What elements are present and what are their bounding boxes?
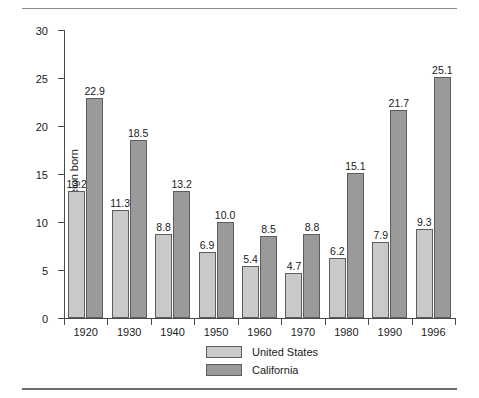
x-axis-tick	[64, 318, 65, 325]
bar-value-label: 5.4	[243, 253, 258, 265]
bar-united-states-1996: 9.3	[416, 229, 433, 318]
bar-value-label: 8.8	[305, 221, 320, 233]
y-axis-tick: 20	[58, 126, 65, 127]
x-axis-line	[64, 318, 456, 319]
x-axis-tick-label: 1990	[378, 326, 402, 338]
bar-united-states-1960: 5.4	[242, 266, 259, 318]
bar-value-label: 6.9	[200, 239, 215, 251]
bar-california-1930: 18.5	[130, 140, 147, 318]
x-axis-tick-label: 1920	[73, 326, 97, 338]
legend-swatch-icon-united-states	[206, 346, 242, 358]
x-axis-tick	[325, 318, 326, 325]
figure: Percent foreign born 05101520253013.222.…	[0, 0, 479, 398]
x-axis-tick	[238, 318, 239, 325]
x-axis-tick	[281, 318, 282, 325]
bar-california-1980: 15.1	[347, 173, 364, 318]
y-axis-tick-label: 25	[36, 73, 48, 85]
bar-california-1996: 25.1	[434, 77, 451, 318]
y-axis-tick-label: 10	[36, 217, 48, 229]
bar-value-label: 18.5	[128, 127, 148, 139]
y-axis-tick: 15	[58, 174, 65, 175]
bar-value-label: 6.2	[330, 245, 345, 257]
y-axis-tick-label: 30	[36, 25, 48, 37]
bar-value-label: 21.7	[389, 97, 409, 109]
x-axis-tick	[455, 318, 456, 325]
x-axis-tick	[194, 318, 195, 325]
bar-united-states-1970: 4.7	[285, 273, 302, 318]
bar-value-label: 25.1	[432, 64, 452, 76]
legend-item-united-states: United States	[206, 344, 318, 359]
bar-california-1950: 10.0	[217, 222, 234, 318]
bar-california-1990: 21.7	[390, 110, 407, 318]
y-axis-tick: 10	[58, 222, 65, 223]
bar-value-label: 10.0	[215, 209, 235, 221]
bar-united-states-1980: 6.2	[329, 258, 346, 318]
y-axis-tick: 25	[58, 78, 65, 79]
bar-california-1940: 13.2	[173, 191, 190, 318]
bar-value-label: 4.7	[287, 260, 302, 272]
legend-swatch-icon-california	[206, 364, 242, 376]
bar-california-1970: 8.8	[303, 234, 320, 318]
legend-item-california: California	[206, 362, 318, 377]
x-axis-tick	[151, 318, 152, 325]
bar-value-label: 15.1	[345, 160, 365, 172]
bar-california-1920: 22.9	[86, 98, 103, 318]
bar-united-states-1930: 11.3	[112, 210, 129, 318]
bottom-divider-rule	[22, 388, 457, 390]
bar-value-label: 9.3	[417, 216, 432, 228]
bar-value-label: 13.2	[171, 178, 191, 190]
bar-united-states-1990: 7.9	[372, 242, 389, 318]
legend-label-california: California	[252, 364, 298, 376]
plot-area: 05101520253013.222.9192011.318.519308.81…	[64, 30, 455, 318]
x-axis-tick	[368, 318, 369, 325]
bar-value-label: 11.3	[110, 197, 130, 209]
bar-united-states-1920: 13.2	[68, 191, 85, 318]
y-axis-tick-label: 5	[42, 265, 48, 277]
y-axis-tick-label: 20	[36, 121, 48, 133]
bar-united-states-1940: 8.8	[155, 234, 172, 318]
bar-value-label: 22.9	[85, 85, 105, 97]
bar-value-label: 13.2	[67, 178, 87, 190]
bar-value-label: 7.9	[374, 229, 389, 241]
bar-united-states-1950: 6.9	[199, 252, 216, 318]
x-axis-tick	[412, 318, 413, 325]
x-axis-tick-label: 1930	[117, 326, 141, 338]
x-axis-tick-label: 1996	[421, 326, 445, 338]
legend-label-united-states: United States	[252, 346, 318, 358]
x-axis-tick-label: 1960	[247, 326, 271, 338]
y-axis-tick: 30	[58, 30, 65, 31]
y-axis-tick-label: 0	[42, 313, 48, 325]
top-divider-rule	[22, 8, 457, 9]
bar-value-label: 8.8	[156, 221, 171, 233]
bar-california-1960: 8.5	[260, 236, 277, 318]
x-axis-tick-label: 1950	[204, 326, 228, 338]
y-axis-tick-label: 15	[36, 169, 48, 181]
x-axis-tick-label: 1980	[334, 326, 358, 338]
y-axis-tick: 5	[58, 270, 65, 271]
x-axis-tick-label: 1970	[291, 326, 315, 338]
legend: United States California	[206, 344, 318, 380]
x-axis-tick	[107, 318, 108, 325]
x-axis-tick-label: 1940	[160, 326, 184, 338]
bar-value-label: 8.5	[261, 223, 276, 235]
